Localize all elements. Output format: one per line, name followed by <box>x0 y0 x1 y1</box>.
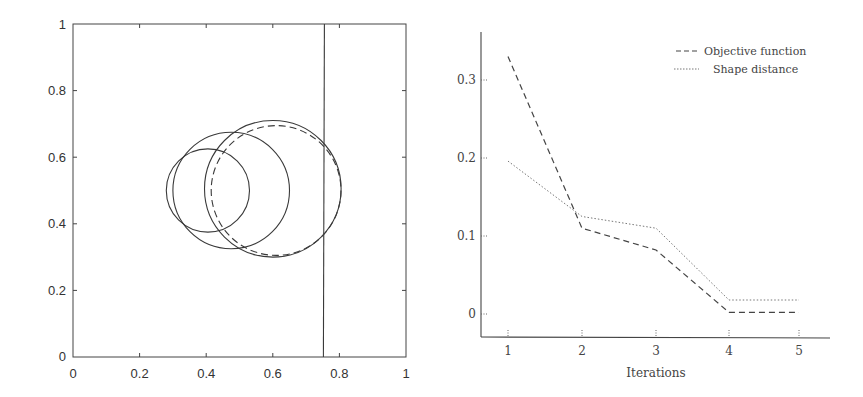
left-ytick-label: 0 <box>59 349 66 364</box>
left-xtick-label: 1 <box>402 366 409 381</box>
right-y-ticks <box>481 80 488 314</box>
series-objective-function <box>508 57 799 313</box>
left-plot: 0 0.2 0.4 0.6 0.8 1 0 0.2 0.4 0.6 0.8 1 <box>48 17 410 382</box>
vertical-line <box>323 24 324 357</box>
right-xtick-label: 4 <box>725 344 733 358</box>
left-xtick-label: 0.6 <box>264 366 282 381</box>
left-xtick-label: 0 <box>69 366 76 381</box>
left-plot-frame <box>73 24 406 357</box>
legend: Objective function Shape distance <box>674 45 806 76</box>
left-xtick-label: 0.2 <box>131 366 149 381</box>
left-x-ticks <box>140 24 340 357</box>
right-x-ticks <box>508 330 799 337</box>
circle-small <box>166 149 249 232</box>
legend-label-shape-distance: Shape distance <box>713 63 798 76</box>
right-ytick-label: 0.3 <box>457 73 476 87</box>
left-y-ticks <box>73 91 406 291</box>
legend-label-objective: Objective function <box>704 45 806 58</box>
left-ytick-label: 0.6 <box>48 150 66 165</box>
right-xtick-label: 5 <box>795 344 803 358</box>
right-x-axis <box>481 337 830 338</box>
right-plot: 0.3 0.2 0.1 0 1 2 3 4 5 Iterations Objec… <box>457 32 830 380</box>
right-xtick-label: 2 <box>578 344 586 358</box>
left-ytick-label: 0.8 <box>48 83 66 98</box>
right-xtick-label: 3 <box>652 344 660 358</box>
series-shape-distance <box>508 161 799 300</box>
left-xtick-label: 0.8 <box>330 366 348 381</box>
figure: 0 0.2 0.4 0.6 0.8 1 0 0.2 0.4 0.6 0.8 1 <box>0 0 863 397</box>
left-ytick-label: 1 <box>59 17 66 32</box>
left-shapes <box>166 24 341 357</box>
right-ytick-label: 0.2 <box>457 151 476 165</box>
right-ytick-label: 0 <box>468 307 476 321</box>
right-xtick-label: 1 <box>504 344 512 358</box>
right-xlabel: Iterations <box>626 366 685 380</box>
left-ytick-label: 0.4 <box>48 216 66 231</box>
right-ytick-label: 0.1 <box>457 229 476 243</box>
circle-medium <box>173 132 290 249</box>
circle-large <box>204 121 341 258</box>
left-ytick-label: 0.2 <box>48 283 66 298</box>
left-xtick-label: 0.4 <box>197 366 215 381</box>
